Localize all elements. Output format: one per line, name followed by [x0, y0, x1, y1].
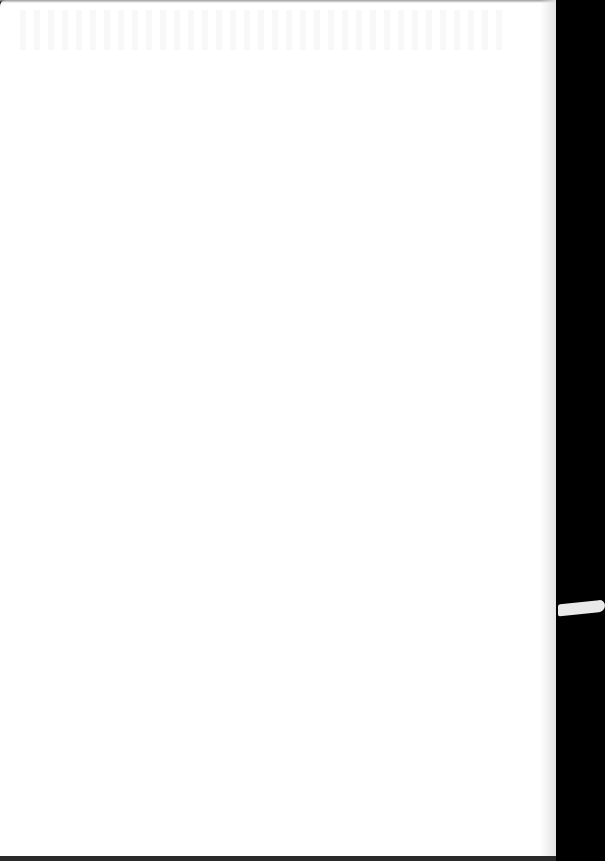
paper-sliver [558, 600, 605, 617]
page-bottom-edge [0, 856, 556, 861]
bleed-through-text [20, 10, 510, 50]
page-right-edge-shadow [540, 0, 556, 858]
blank-paper-page [0, 0, 556, 858]
page-top-edge [0, 0, 556, 3]
